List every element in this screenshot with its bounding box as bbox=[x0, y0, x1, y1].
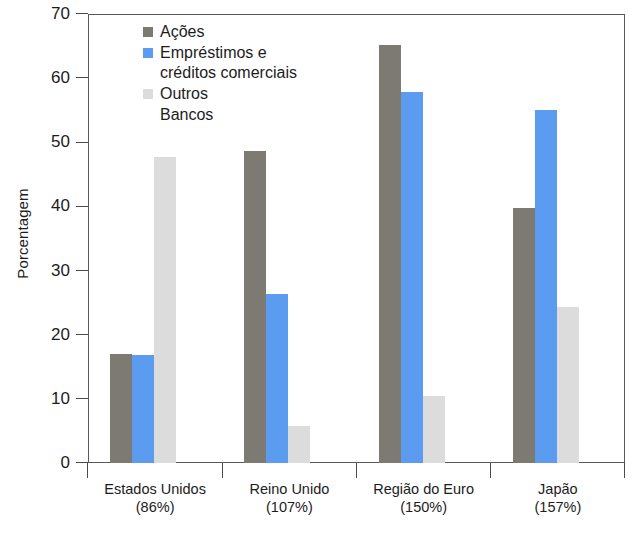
bar bbox=[244, 151, 266, 463]
x-axis-group-label-line2: (150%) bbox=[357, 498, 491, 516]
bar bbox=[154, 157, 176, 463]
x-axis-group-label: Japão(157%) bbox=[491, 480, 625, 516]
chart-legend: AçõesEmpréstimos e créditos comerciaisOu… bbox=[143, 22, 373, 126]
bar bbox=[535, 110, 557, 463]
legend-item: Ações bbox=[143, 22, 373, 42]
x-axis-group-label-line2: (107%) bbox=[222, 498, 356, 516]
legend-swatch-icon bbox=[143, 27, 153, 37]
x-axis-group-label: Reino Unido(107%) bbox=[222, 480, 356, 516]
legend-item: Outros bbox=[143, 84, 373, 104]
bar-chart: Porcentagem 010203040506070 Estados Unid… bbox=[0, 0, 635, 545]
legend-swatch-icon bbox=[143, 110, 153, 120]
legend-swatch-icon bbox=[143, 89, 153, 99]
x-axis-group-label-line2: (157%) bbox=[491, 498, 625, 516]
x-axis-group-label-line1: Região do Euro bbox=[373, 481, 474, 497]
bar bbox=[513, 208, 535, 463]
legend-item-label: Outros bbox=[160, 84, 208, 104]
bar bbox=[557, 307, 579, 463]
bar bbox=[110, 354, 132, 463]
legend-item-label: Ações bbox=[160, 22, 204, 42]
x-axis-group-label-line1: Reino Unido bbox=[249, 481, 329, 497]
bar bbox=[423, 396, 445, 463]
bar bbox=[288, 426, 310, 463]
legend-item: Bancos bbox=[143, 105, 373, 125]
legend-item-label: Empréstimos e créditos comerciais bbox=[160, 43, 297, 83]
legend-item: Empréstimos e créditos comerciais bbox=[143, 43, 373, 83]
x-axis-group-label: Região do Euro(150%) bbox=[357, 480, 491, 516]
legend-item-label: Bancos bbox=[160, 105, 213, 125]
x-axis-group-label-line1: Estados Unidos bbox=[104, 481, 206, 497]
legend-swatch-icon bbox=[143, 48, 153, 58]
x-axis-group-label-line2: (86%) bbox=[88, 498, 222, 516]
x-axis-group-label: Estados Unidos(86%) bbox=[88, 480, 222, 516]
bar bbox=[401, 92, 423, 463]
x-axis-group-label-line1: Japão bbox=[538, 481, 578, 497]
bar bbox=[132, 355, 154, 463]
bar bbox=[379, 45, 401, 463]
bar bbox=[266, 294, 288, 463]
